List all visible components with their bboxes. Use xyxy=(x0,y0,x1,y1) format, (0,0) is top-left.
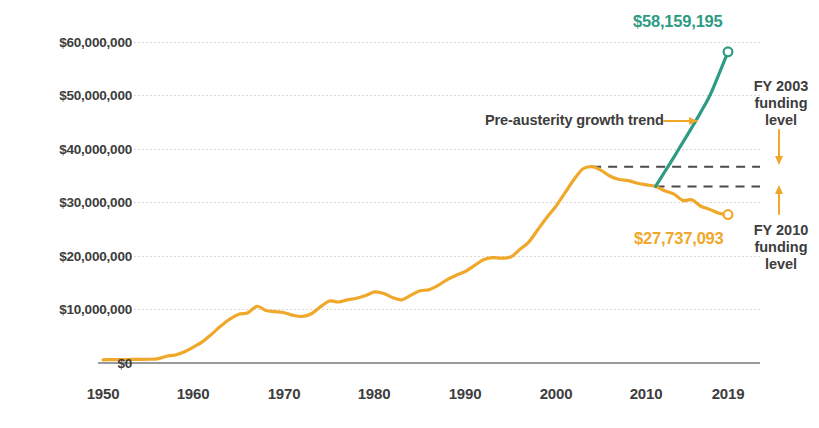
endpoint-markers xyxy=(724,47,733,219)
fy2003-funding-level-label: FY 2003 funding level xyxy=(748,78,814,129)
y-tick-label-0: $0 xyxy=(4,356,132,371)
x-tick-label-1970: 1970 xyxy=(268,385,301,402)
y-tick-label-60m: $60,000,000 xyxy=(4,35,132,50)
pre-austerity-trend-label: Pre-austerity growth trend xyxy=(485,112,664,128)
orange-endpoint-value-label: $27,737,093 xyxy=(634,229,724,248)
fy2010-funding-level-label: FY 2010 funding level xyxy=(748,222,814,273)
x-tick-label-2000: 2000 xyxy=(540,385,573,402)
x-tick-label-1980: 1980 xyxy=(358,385,391,402)
y-tick-label-20m: $20,000,000 xyxy=(4,249,132,264)
x-tick-label-1950: 1950 xyxy=(87,385,120,402)
y-tick-label-30m: $30,000,000 xyxy=(4,195,132,210)
y-tick-label-40m: $40,000,000 xyxy=(4,142,132,157)
x-tick-label-1960: 1960 xyxy=(177,385,210,402)
x-tick-label-1990: 1990 xyxy=(449,385,482,402)
green-endpoint-value-label: $58,159,195 xyxy=(633,12,723,31)
chart-container: $60,000,000 $50,000,000 $40,000,000 $30,… xyxy=(0,0,819,428)
y-tick-label-50m: $50,000,000 xyxy=(4,88,132,103)
x-tick-label-2019: 2019 xyxy=(712,385,745,402)
data-series xyxy=(103,52,728,360)
x-tick-label-2010: 2010 xyxy=(630,385,663,402)
reference-lines xyxy=(592,167,760,187)
y-tick-label-10m: $10,000,000 xyxy=(4,302,132,317)
